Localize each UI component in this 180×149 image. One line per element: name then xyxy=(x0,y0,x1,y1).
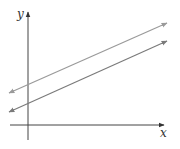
axes-and-lines xyxy=(0,0,180,149)
diagram: y x xyxy=(0,0,180,149)
upper-line xyxy=(9,23,167,93)
x-axis-label: x xyxy=(160,126,167,140)
lower-line xyxy=(9,41,167,112)
y-axis-label: y xyxy=(17,7,24,21)
